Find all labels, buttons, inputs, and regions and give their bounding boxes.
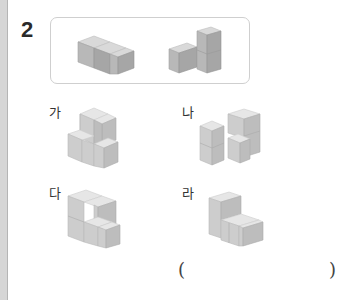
option-label-ra: 라 — [182, 183, 194, 202]
option-label-na: 나 — [182, 102, 194, 121]
piece-t-shape-figure — [74, 34, 138, 76]
option-na-figure[interactable] — [198, 108, 270, 170]
option-ga-figure[interactable] — [64, 104, 124, 170]
page-margin-stripe — [0, 0, 8, 300]
answer-open-paren: ( — [178, 259, 185, 280]
answer-blank[interactable] — [192, 262, 322, 282]
piece-l-tower-figure — [167, 25, 227, 77]
answer-close-paren: ) — [329, 259, 336, 280]
question-number: 2 — [21, 17, 33, 43]
option-label-da: 다 — [49, 183, 61, 202]
option-ra-figure[interactable] — [205, 190, 267, 250]
option-label-ga: 가 — [49, 102, 61, 121]
option-da-figure[interactable] — [64, 186, 124, 252]
